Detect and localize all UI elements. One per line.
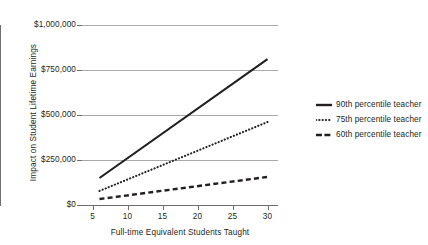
series-line — [100, 59, 268, 178]
legend-label: 60th percentile teacher — [336, 130, 422, 139]
chart-legend: 90th percentile teacher75th percentile t… — [316, 98, 428, 143]
x-axis-tick-label: 30 — [248, 212, 288, 221]
x-axis-tickmark — [163, 206, 164, 210]
legend-label: 75th percentile teacher — [336, 115, 422, 124]
x-axis-tickmark — [198, 206, 199, 210]
legend-label: 90th percentile teacher — [336, 100, 422, 109]
x-axis-tickmark — [268, 206, 269, 210]
y-axis-tick-label: $1,000,000 — [8, 20, 76, 29]
y-axis-tick-label: $500,000 — [8, 110, 76, 119]
legend-item[interactable]: 60th percentile teacher — [316, 128, 428, 141]
y-axis-tick-labels: $0$250,000$500,000$750,000$1,000,000 — [6, 0, 76, 245]
y-axis-tick-label: $750,000 — [8, 65, 76, 74]
x-axis-tickmark — [233, 206, 234, 210]
x-axis-title: Full-time Equivalent Students Taught — [82, 228, 278, 237]
chart-figure: Impact on Student Lifetime Earnings $0$2… — [0, 0, 428, 245]
x-axis-tick-label: 15 — [143, 212, 183, 221]
y-axis-tick-label: $250,000 — [8, 155, 76, 164]
x-axis-tickmark — [128, 206, 129, 210]
plot-area — [82, 25, 278, 205]
x-axis-tick-label: 5 — [73, 212, 113, 221]
y-axis-tick-label: $0 — [8, 200, 76, 209]
y-axis-line — [0, 25, 1, 206]
legend-item[interactable]: 90th percentile teacher — [316, 98, 428, 111]
legend-swatch-dotted — [316, 115, 332, 125]
series-lines — [82, 25, 278, 205]
legend-swatch-solid — [316, 100, 332, 110]
x-axis-tickmark — [93, 206, 94, 210]
x-axis-line — [82, 205, 278, 206]
legend-swatch-dashed — [316, 130, 332, 140]
x-axis-tick-label: 20 — [178, 212, 218, 221]
x-axis-tick-label: 25 — [213, 212, 253, 221]
legend-item[interactable]: 75th percentile teacher — [316, 113, 428, 126]
x-axis-tick-label: 10 — [108, 212, 148, 221]
